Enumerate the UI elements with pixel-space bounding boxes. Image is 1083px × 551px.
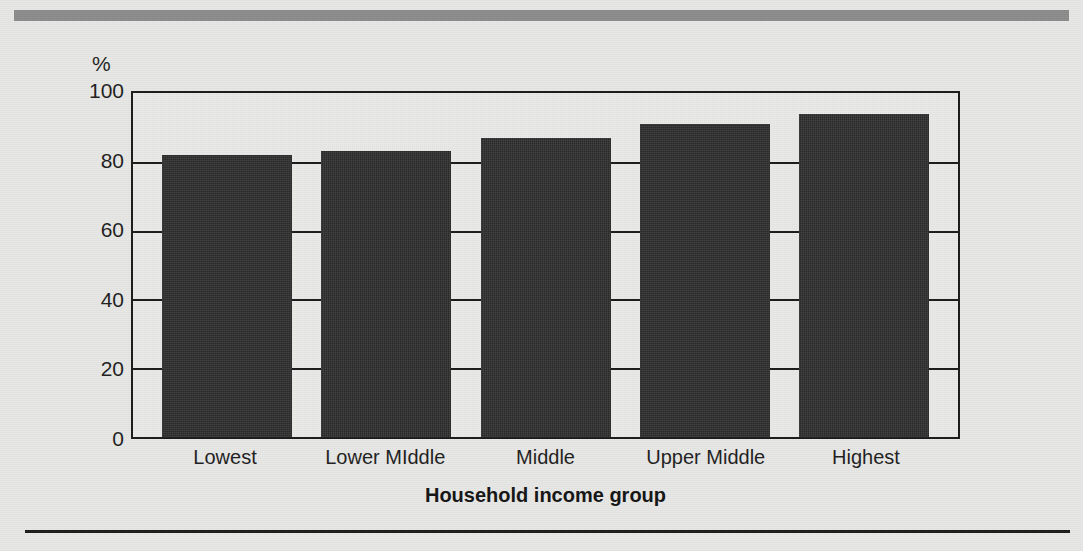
y-tick-label: 40	[82, 288, 124, 312]
y-axis-tick-labels: 100 80 60 40 20 0	[74, 91, 124, 439]
x-axis-title: Household income group	[131, 484, 960, 507]
x-tick-label-middle: Middle	[481, 446, 611, 472]
bar-middle	[481, 138, 611, 437]
y-axis-unit-label: %	[92, 52, 111, 76]
bar-lowest	[162, 155, 292, 437]
bar-highest	[799, 114, 929, 437]
x-tick-label-lowest: Lowest	[160, 446, 290, 472]
plot-area	[131, 91, 960, 439]
x-tick-label-lower-middle: Lower MIddle	[320, 446, 450, 472]
x-tick-label-highest: Highest	[801, 446, 931, 472]
y-tick-label: 60	[82, 218, 124, 242]
y-tick-label: 80	[82, 149, 124, 173]
y-tick-label: 0	[82, 427, 124, 451]
x-axis-tick-labels: Lowest Lower MIddle Middle Upper Middle …	[131, 446, 960, 472]
bottom-horizontal-rule	[25, 530, 1070, 533]
figure-page: % 100 80 60 40 20 0 Lowest Lower MId	[0, 0, 1083, 551]
bar-lower-middle	[321, 151, 451, 437]
y-tick-label: 100	[82, 79, 124, 103]
bar-upper-middle	[640, 124, 770, 437]
y-tick-label: 20	[82, 357, 124, 381]
bar-chart: % 100 80 60 40 20 0 Lowest Lower MId	[0, 0, 1083, 551]
x-tick-label-upper-middle: Upper Middle	[641, 446, 771, 472]
bar-series	[133, 93, 958, 437]
